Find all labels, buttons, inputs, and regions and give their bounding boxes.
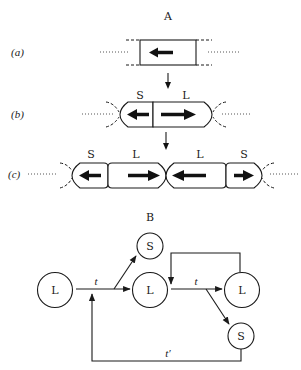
row-b-label: (b) xyxy=(11,108,24,121)
edge-label-t: t xyxy=(94,275,98,287)
edge-l-right-feedback xyxy=(171,253,240,284)
cell-label-s: S xyxy=(87,148,95,161)
row-b: (b) S L xyxy=(11,89,252,127)
wall-curve xyxy=(106,117,119,127)
edge-l-mid-to-l-right: t xyxy=(171,275,222,289)
cell-label-l: L xyxy=(132,148,140,161)
node-s-bottom: S xyxy=(228,323,254,349)
node-l-right: L xyxy=(225,273,260,308)
edge-branch-to-s-top xyxy=(114,256,136,289)
cell-division-diagram: A (a) (b) S L xyxy=(0,0,301,370)
wall-curve xyxy=(106,102,119,112)
node-l-start: L xyxy=(38,273,73,308)
edge-label-t-prime: t′ xyxy=(165,347,171,359)
node-l-mid: L xyxy=(133,273,168,308)
svg-text:L: L xyxy=(238,284,246,297)
row-c: (c) S L L S xyxy=(8,148,298,188)
wall-curve xyxy=(213,102,226,112)
cell-label-s: S xyxy=(240,148,248,161)
wall-curve xyxy=(60,163,72,171)
row-c-label: (c) xyxy=(8,168,21,181)
part-a-title: A xyxy=(163,10,173,23)
arrow-down-icon xyxy=(163,132,169,150)
cell-label-l: L xyxy=(196,148,204,161)
wall-curve xyxy=(213,117,226,127)
row-a: (a) xyxy=(11,40,240,65)
row-a-label: (a) xyxy=(11,46,24,59)
edge-label-t: t xyxy=(194,275,198,287)
svg-text:L: L xyxy=(146,284,154,297)
wall-curve xyxy=(262,163,274,171)
svg-text:S: S xyxy=(146,240,154,253)
part-b-title: B xyxy=(146,211,154,224)
wall-curve xyxy=(60,178,72,188)
edge-s-bottom-return: t′ xyxy=(92,294,241,361)
node-s-top: S xyxy=(137,233,163,259)
cell-label-l: L xyxy=(182,89,190,102)
cell-label-s: S xyxy=(136,89,144,102)
svg-text:L: L xyxy=(51,284,59,297)
wall-curve xyxy=(262,178,274,188)
arrow-down-icon xyxy=(165,73,171,89)
svg-text:S: S xyxy=(237,330,245,343)
